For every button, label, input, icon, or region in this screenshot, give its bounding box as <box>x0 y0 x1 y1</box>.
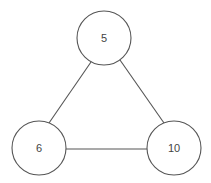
edges <box>49 60 164 149</box>
edge-5-10 <box>120 60 164 123</box>
node-6: 6 <box>12 121 66 175</box>
node-10: 10 <box>147 121 201 175</box>
edge-5-6 <box>49 62 91 123</box>
nodes: 5 6 10 <box>12 11 201 175</box>
node-5-label: 5 <box>101 32 107 44</box>
node-6-label: 6 <box>36 142 42 154</box>
node-5: 5 <box>77 11 131 65</box>
node-10-label: 10 <box>168 142 180 154</box>
graph-diagram: 5 6 10 <box>0 0 211 183</box>
